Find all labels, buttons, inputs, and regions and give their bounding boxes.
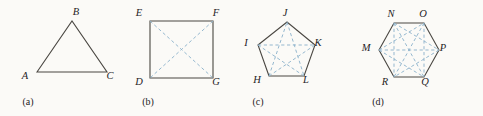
pentagon-outline xyxy=(258,22,315,76)
vertex-label-M: M xyxy=(361,42,372,53)
vertex-label-G: G xyxy=(212,76,220,87)
vertex-label-D: D xyxy=(134,76,143,87)
figure-panel-d: MNOPQR(d) xyxy=(361,8,447,108)
vertex-label-C: C xyxy=(106,70,114,81)
vertex-label-R: R xyxy=(381,76,389,87)
vertex-label-F: F xyxy=(212,7,220,18)
vertex-label-L: L xyxy=(302,74,309,85)
vertex-label-E: E xyxy=(135,7,143,18)
vertex-label-Q: Q xyxy=(421,76,429,87)
figure-canvas: ABC(a)DEFG(b)HIJKL(c)MNOPQR(d) xyxy=(0,0,483,116)
vertex-label-K: K xyxy=(313,37,322,48)
vertex-label-H: H xyxy=(252,74,262,85)
vertex-label-P: P xyxy=(439,42,447,53)
figure-panel-a: ABC(a) xyxy=(21,6,115,108)
diagonal-HJ xyxy=(269,22,287,76)
panel-caption-0: (a) xyxy=(22,96,33,108)
vertex-label-B: B xyxy=(73,6,80,17)
vertex-label-J: J xyxy=(283,7,289,18)
figure-panel-c: HIJKL(c) xyxy=(243,7,322,108)
vertex-label-I: I xyxy=(243,37,248,48)
triangle-outline xyxy=(37,21,107,72)
figure-panel-b: DEFG(b) xyxy=(134,7,220,108)
vertex-label-O: O xyxy=(419,8,427,19)
diagonal-IL xyxy=(258,45,304,76)
vertex-label-A: A xyxy=(21,70,29,81)
vertex-label-N: N xyxy=(386,8,395,19)
diagonal-HK xyxy=(269,45,315,76)
panel-caption-1: (b) xyxy=(142,96,154,108)
polygon-diagram-figure: ABC(a)DEFG(b)HIJKL(c)MNOPQR(d) xyxy=(0,0,483,116)
diagonal-JL xyxy=(287,22,304,76)
panel-caption-2: (c) xyxy=(252,96,263,108)
panel-caption-3: (d) xyxy=(372,96,384,108)
